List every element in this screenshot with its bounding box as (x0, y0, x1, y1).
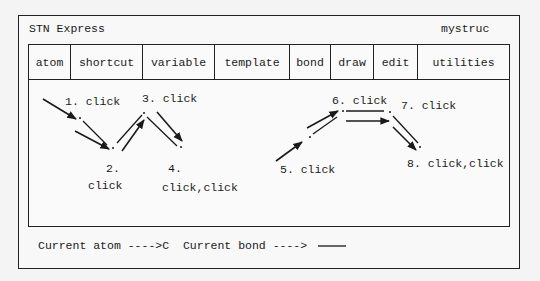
tab-utilities[interactable]: utilities (418, 45, 509, 79)
tab-label: atom (36, 56, 64, 69)
tab-atom[interactable]: atom (29, 45, 71, 79)
tab-label: utilities (432, 56, 494, 69)
tab-label: bond (296, 56, 324, 69)
status-bar-text: Current atom ---->C Current bond ----> (38, 239, 307, 252)
label-step2-num: 2. (106, 162, 120, 175)
tab-label: template (224, 56, 279, 69)
tab-label: shortcut (79, 56, 134, 69)
label-step3: 3. click (142, 92, 197, 105)
app-title: STN Express (29, 22, 105, 35)
structure-name: mystruc (441, 22, 489, 35)
label-step2-action: click (88, 179, 123, 192)
tab-draw[interactable]: draw (331, 45, 374, 79)
label-step1: 1. click (65, 95, 120, 108)
label-step7: 7. click (401, 99, 456, 112)
label-step4-num: 4. (168, 162, 182, 175)
tab-shortcut[interactable]: shortcut (71, 45, 143, 79)
tab-label: draw (338, 56, 366, 69)
tab-edit[interactable]: edit (374, 45, 418, 79)
menu-tab-bar: atom shortcut variable template bond dra… (29, 45, 509, 80)
tab-variable[interactable]: variable (143, 45, 215, 79)
tab-template[interactable]: template (215, 45, 290, 79)
label-step5: 5. click (280, 163, 335, 176)
tab-label: edit (382, 56, 410, 69)
label-step4-action: click,click (162, 181, 238, 194)
label-step8: 8. click,click (407, 157, 504, 170)
tab-label: variable (151, 56, 206, 69)
tab-bond[interactable]: bond (290, 45, 331, 79)
label-step6: 6. click (332, 94, 387, 107)
